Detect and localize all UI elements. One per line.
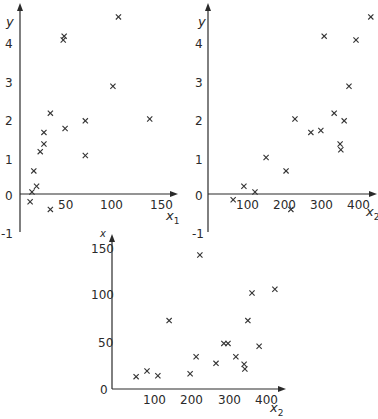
data-point-x-marker: [338, 147, 343, 152]
x-tick-label: 200: [273, 198, 296, 212]
data-point-x-marker: [332, 111, 337, 116]
data-markers: [134, 252, 278, 379]
y-tick-label: 0: [100, 383, 108, 397]
x-axis-arrow: [369, 191, 377, 197]
data-point-x-marker: [48, 207, 53, 212]
data-point-x-marker: [346, 84, 351, 89]
data-point-x-marker: [116, 14, 121, 19]
data-markers: [231, 14, 374, 212]
x-axis-arrow: [278, 386, 286, 392]
data-point-x-marker: [308, 130, 313, 135]
y-tick-label: -1: [1, 227, 13, 241]
data-point-x-marker: [337, 141, 342, 146]
data-point-x-marker: [48, 111, 53, 116]
data-point-x-marker: [83, 153, 88, 158]
data-point-x-marker: [342, 118, 347, 123]
y-tick-label: 3: [5, 76, 13, 90]
y-axis-arrow: [17, 3, 23, 11]
y-axis-label: y: [197, 14, 206, 29]
data-point-x-marker: [194, 354, 199, 359]
data-point-x-marker: [272, 287, 277, 292]
x-axis-arrow: [170, 191, 178, 197]
x-tick-label: 200: [180, 393, 203, 407]
data-point-x-marker: [28, 199, 33, 204]
y-tick-label: 150: [91, 242, 114, 256]
data-point-x-marker: [197, 252, 202, 257]
data-point-x-marker: [283, 168, 288, 173]
y-axis-arrow: [109, 234, 115, 242]
scatter-panel-y-vs-x2: y 4 3 2 1 0 -1 100 200 300 400 x2: [192, 3, 378, 241]
data-point-x-marker: [155, 373, 160, 378]
y-tick-label: -1: [192, 227, 204, 241]
data-point-x-marker: [318, 128, 323, 133]
data-point-x-marker: [233, 354, 238, 359]
x-tick-label: 100: [236, 198, 259, 212]
y-tick-label: 4: [5, 37, 13, 51]
data-point-x-marker: [249, 290, 254, 295]
x-tick-label: 100: [143, 393, 166, 407]
y-tick-label: 2: [5, 114, 13, 128]
y-tick-label: 1: [195, 153, 203, 167]
y-axis-arrow: [205, 3, 211, 11]
data-point-x-marker: [41, 141, 46, 146]
data-point-x-marker: [231, 197, 236, 202]
data-point-x-marker: [144, 368, 149, 373]
data-point-x-marker: [167, 318, 172, 323]
data-point-x-marker: [257, 344, 262, 349]
y-tick-label: 100: [91, 288, 114, 302]
data-point-x-marker: [322, 34, 327, 39]
y-tick-label: 1: [5, 153, 13, 167]
y-tick-label: 4: [195, 37, 203, 51]
data-point-x-marker: [292, 116, 297, 121]
data-point-x-marker: [188, 371, 193, 376]
x-tick-label: 50: [58, 198, 73, 212]
x-axis-label: x2: [269, 400, 283, 418]
x-axis-label: x1: [165, 208, 179, 226]
data-point-x-marker: [368, 14, 373, 19]
data-point-x-marker: [31, 168, 36, 173]
x-tick-label: 300: [218, 393, 241, 407]
scatter-panel-x-vs-x2: x 150 100 50 0 100 200 300 400 x2: [91, 228, 286, 418]
data-point-x-marker: [263, 155, 268, 160]
data-point-x-marker: [34, 184, 39, 189]
y-tick-label: 50: [98, 336, 113, 350]
y-axis-label: x: [99, 228, 106, 239]
data-point-x-marker: [147, 116, 152, 121]
scatter-panel-y-vs-x1: y 4 3 2 1 0 -1 50 100 150 x1: [1, 3, 179, 241]
data-markers: [28, 14, 153, 212]
data-point-x-marker: [134, 374, 139, 379]
data-point-x-marker: [41, 130, 46, 135]
y-tick-label: 3: [195, 76, 203, 90]
scatter-figure: y 4 3 2 1 0 -1 50 100 150 x1 y 4 3 2 1 0…: [0, 0, 378, 419]
y-tick-label: 0: [195, 189, 203, 203]
data-point-x-marker: [213, 361, 218, 366]
data-point-x-marker: [241, 184, 246, 189]
data-point-x-marker: [353, 37, 358, 42]
data-point-x-marker: [61, 37, 66, 42]
data-point-x-marker: [110, 84, 115, 89]
x-tick-label: 300: [310, 198, 333, 212]
y-tick-label: 0: [5, 189, 13, 203]
y-axis-label: y: [5, 14, 14, 29]
data-point-x-marker: [62, 126, 67, 131]
data-point-x-marker: [245, 318, 250, 323]
y-tick-label: 2: [195, 114, 203, 128]
data-point-x-marker: [225, 341, 230, 346]
data-point-x-marker: [242, 366, 247, 371]
data-point-x-marker: [242, 362, 247, 367]
data-point-x-marker: [38, 149, 43, 154]
x-tick-label: 100: [100, 198, 123, 212]
data-point-x-marker: [83, 118, 88, 123]
x-axis-label: x2: [365, 204, 378, 222]
